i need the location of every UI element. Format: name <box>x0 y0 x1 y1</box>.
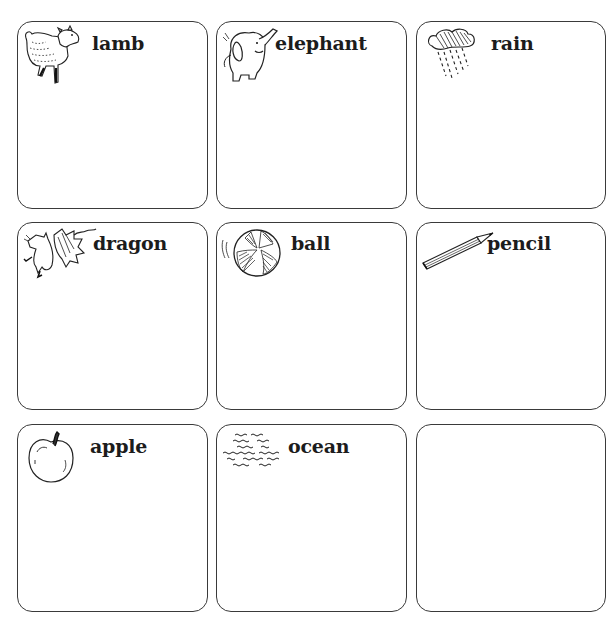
word-card-blank <box>416 424 606 612</box>
beach-ball-icon <box>221 228 281 278</box>
dragon-icon <box>22 227 98 281</box>
word-card-dragon: dragon <box>17 222 208 410</box>
word-card-apple: apple <box>17 424 208 612</box>
ocean-waves-icon <box>221 431 283 471</box>
word-card-elephant: elephant <box>216 21 407 209</box>
word-card-lamb: lamb <box>17 21 208 209</box>
word-card-rain: rain <box>416 21 606 209</box>
word-label: elephant <box>275 34 367 53</box>
word-label: apple <box>90 437 147 456</box>
elephant-icon <box>221 27 281 85</box>
word-label: dragon <box>93 234 167 253</box>
word-label: ocean <box>288 437 349 456</box>
word-card-ball: ball <box>216 222 407 410</box>
word-label: rain <box>491 34 534 53</box>
pencil-icon <box>419 227 495 269</box>
word-label: lamb <box>92 34 144 53</box>
word-card-ocean: ocean <box>216 424 407 612</box>
word-card-pencil: pencil <box>416 222 606 410</box>
lamb-icon <box>22 26 92 94</box>
word-label: pencil <box>487 234 551 253</box>
word-label: ball <box>291 234 330 253</box>
apple-icon <box>25 430 79 486</box>
rain-cloud-icon <box>426 28 476 82</box>
